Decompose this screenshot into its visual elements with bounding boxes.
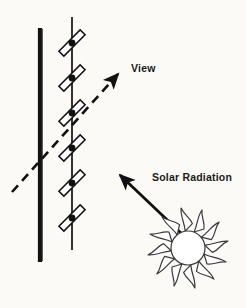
wall-bar: [40, 28, 42, 262]
louver-pivot: [69, 215, 76, 222]
view-arrow: [12, 74, 118, 192]
view-label: View: [131, 63, 156, 74]
sun-icon: [147, 207, 229, 289]
solar-radiation-label: Solar Radiation: [152, 172, 232, 183]
louver-pivot: [69, 110, 76, 117]
louver-pivot: [69, 75, 76, 82]
louver-pivot: [69, 40, 76, 47]
diagram-svg: [0, 0, 246, 308]
louver-pivot: [69, 180, 76, 187]
louver-pivot: [69, 145, 76, 152]
sun-core: [171, 231, 205, 265]
diagram-canvas: View Solar Radiation: [0, 0, 246, 308]
